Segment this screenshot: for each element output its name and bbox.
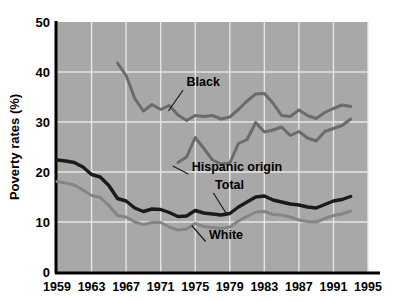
x-tick-label: 1979: [216, 280, 244, 294]
y-tick-label: 40: [36, 65, 50, 80]
y-tick-label: 20: [36, 165, 50, 180]
series-label-black: Black: [187, 75, 220, 89]
y-axis-tick-labels: 01020304050: [36, 15, 50, 280]
y-axis-title: Poverty rates (%): [7, 94, 22, 200]
series-label-white: White: [209, 228, 243, 242]
x-tick-label: 1987: [285, 280, 313, 294]
x-tick-label: 1971: [147, 280, 175, 294]
x-tick-label: 1983: [250, 280, 278, 294]
x-tick-label: 1975: [181, 280, 209, 294]
poverty-rates-chart-figure: 01020304050 1959196319671971197519791983…: [0, 0, 402, 301]
x-tick-label: 1995: [354, 280, 382, 294]
y-tick-label: 10: [36, 215, 50, 230]
x-tick-label: 1967: [112, 280, 140, 294]
y-axis-title-group: Poverty rates (%): [7, 94, 22, 200]
series-label-total: Total: [215, 178, 244, 192]
x-tick-label: 1963: [78, 280, 106, 294]
y-tick-label: 0: [43, 265, 50, 280]
x-axis-tick-labels: 1959196319671971197519791983198719911995: [43, 280, 382, 294]
y-tick-label: 50: [36, 15, 50, 30]
y-tick-label: 30: [36, 115, 50, 130]
x-tick-label: 1959: [43, 280, 71, 294]
x-tick-label: 1991: [320, 280, 348, 294]
series-label-hispanic-origin: Hispanic origin: [192, 160, 282, 174]
chart-canvas: 01020304050 1959196319671971197519791983…: [0, 0, 402, 301]
